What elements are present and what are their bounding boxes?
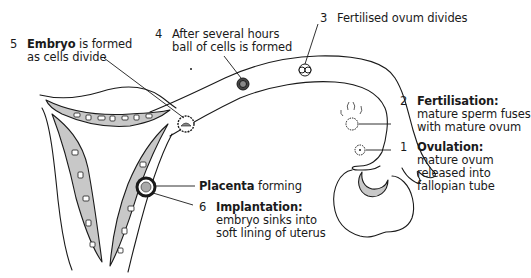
stage-4-number: 4 [155,28,162,41]
placenta-label: Placenta forming [199,180,302,193]
uterine-lining-left [52,114,102,262]
uterus-top-wall [40,87,176,108]
placenta-rest: forming [254,179,301,193]
uterine-lining-top [46,100,170,126]
stage-1-number: 1 [400,141,407,154]
ovary [334,170,414,237]
stage-5-title-suffix: is formed [76,37,133,51]
stage-5-label: 5 Embryo is formed as cells divide [27,38,132,64]
stage-1-label: 1 Ovulation: mature ovum released into f… [417,141,495,193]
stage-3-number: 3 [320,12,327,25]
stage-3-label: 3 Fertilised ovum divides [337,12,467,25]
follicle-crescent [359,172,388,197]
stage-5-number: 5 [10,38,17,51]
stage-5-title: Embryo [27,37,76,51]
stage-6-line-2: soft lining of uterus [216,227,326,240]
two-cell-ovum-icon [299,64,311,76]
fertilised-ovum-icon [346,118,358,130]
stage-3-line-1: Fertilised ovum divides [337,12,467,25]
stage-2-label: 2 Fertilisation: mature sperm fuses with… [417,95,531,134]
stage-4-line-2: ball of cells is formed [172,41,292,54]
placenta-bold: Placenta [199,179,254,193]
stage-2-number: 2 [400,95,407,108]
stage-4-label: 4 After several hours ball of cells is f… [172,28,292,54]
stage-5-line-1: as cells divide [27,51,132,64]
stage-6-label: 6 Implantation: embryo sinks into soft l… [216,201,326,240]
leader-line-3 [305,24,318,64]
stage-6-number: 6 [199,201,206,214]
leader-line-6 [153,193,193,205]
stage-2-line-2: with mature ovum [417,121,531,134]
stage-1-line-3: fallopian tube [417,180,495,193]
